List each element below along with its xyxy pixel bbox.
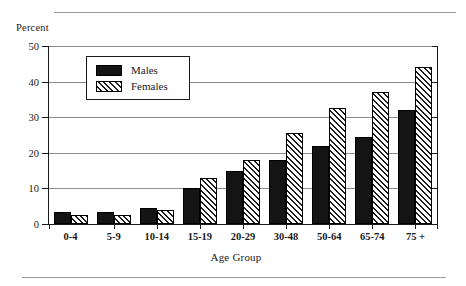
- bar-females: [157, 210, 174, 224]
- x-tick-mark: [329, 224, 330, 229]
- diagonal-hatch-swatch: [96, 81, 122, 92]
- bottom-rule-divider: [22, 277, 446, 278]
- bar-group: [265, 46, 308, 224]
- bar-males: [54, 212, 71, 224]
- figure-panel: Percent 01020304050 0-45-910-1415-1920-2…: [0, 0, 466, 286]
- bar-males: [312, 146, 329, 224]
- x-tick-mark: [243, 224, 244, 229]
- y-tick-mark: [42, 153, 48, 154]
- x-tick-mark: [372, 224, 373, 229]
- x-axis-tick-label: 0-4: [49, 231, 92, 242]
- x-axis-tick-label: 50-64: [308, 231, 351, 242]
- bar-group: [394, 46, 437, 224]
- x-axis-tick-labels: 0-45-910-1415-1920-2930-4850-6465-7475 +: [49, 231, 437, 242]
- right-axis-line: [437, 46, 438, 224]
- solid-black-swatch: [96, 65, 122, 76]
- bar-males: [269, 160, 286, 224]
- bar-group: [221, 46, 264, 224]
- legend-item-label: Females: [131, 80, 168, 92]
- x-tick-mark: [437, 224, 438, 229]
- x-axis-title: Age Group: [0, 251, 466, 263]
- x-axis-tick-label: 65-74: [351, 231, 394, 242]
- x-tick-mark: [157, 224, 158, 229]
- y-tick-label: 40: [29, 76, 40, 87]
- bar-females: [200, 178, 217, 224]
- bar-females: [329, 108, 346, 224]
- bar-males: [183, 188, 200, 224]
- x-tick-mark: [49, 224, 50, 229]
- bar-males: [355, 137, 372, 224]
- x-tick-mark: [114, 224, 115, 229]
- top-rule-divider: [54, 12, 456, 13]
- x-axis-title-text: Age Group: [205, 251, 262, 263]
- y-tick-label: 30: [29, 112, 40, 123]
- x-axis-tick-label: 75 +: [394, 231, 437, 242]
- bar-males: [398, 110, 415, 224]
- y-tick-mark: [42, 188, 48, 189]
- x-axis-tick-label: 15-19: [178, 231, 221, 242]
- bar-males: [97, 212, 114, 224]
- legend-item: Males: [96, 62, 189, 78]
- legend-item: Females: [96, 78, 189, 94]
- bar-group: [308, 46, 351, 224]
- chart-legend: MalesFemales: [86, 56, 190, 100]
- x-axis-tick-label: 30-48: [265, 231, 308, 242]
- y-tick-mark: [42, 46, 48, 47]
- bar-group: [351, 46, 394, 224]
- y-tick-label: 20: [29, 147, 40, 158]
- x-tick-mark: [286, 224, 287, 229]
- bar-females: [286, 133, 303, 224]
- bar-males: [140, 208, 157, 224]
- legend-item-label: Males: [131, 64, 158, 76]
- x-tick-mark: [200, 224, 201, 229]
- bar-females: [415, 67, 432, 224]
- y-tick-label: 50: [29, 41, 40, 52]
- bar-females: [71, 215, 88, 224]
- x-tick-mark: [415, 224, 416, 229]
- x-axis-tick-label: 10-14: [135, 231, 178, 242]
- y-tick-mark: [42, 82, 48, 83]
- x-axis-tick-label: 20-29: [221, 231, 264, 242]
- bar-females: [372, 92, 389, 224]
- y-tick-label: 10: [29, 183, 40, 194]
- y-tick-mark: [42, 224, 48, 225]
- bar-females: [243, 160, 260, 224]
- bar-males: [226, 171, 243, 224]
- y-tick-mark: [42, 117, 48, 118]
- bar-females: [114, 215, 131, 224]
- x-axis-tick-label: 5-9: [92, 231, 135, 242]
- y-tick-label: 0: [34, 219, 39, 230]
- y-axis-title: Percent: [16, 22, 49, 33]
